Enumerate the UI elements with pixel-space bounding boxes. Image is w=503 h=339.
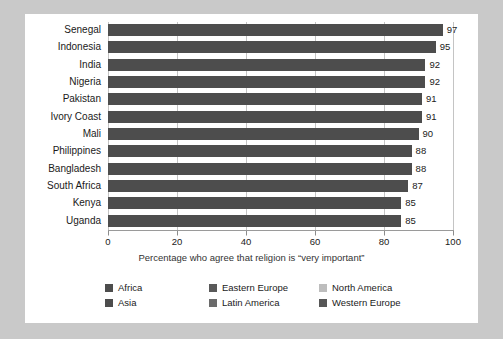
legend-swatch-icon [209, 299, 217, 307]
bar [108, 163, 412, 175]
category-label: Mali [25, 126, 101, 143]
legend-item[interactable]: Latin America [209, 295, 319, 310]
bar-row: 85 [108, 195, 453, 212]
legend-swatch-icon [209, 284, 217, 292]
bar-value-label: 85 [405, 196, 416, 209]
bar-value-label: 91 [426, 92, 437, 105]
x-axis-ticks: 020406080100 [108, 231, 453, 249]
chart-legend: AfricaEastern EuropeNorth AmericaAsiaLat… [105, 280, 405, 310]
legend-label: Eastern Europe [222, 282, 288, 293]
bar-row: 92 [108, 74, 453, 91]
bar-row: 97 [108, 22, 453, 39]
legend-label: Western Europe [332, 297, 400, 308]
bar-row: 88 [108, 143, 453, 160]
bar [108, 197, 401, 209]
bar-row: 90 [108, 126, 453, 143]
bar-value-label: 87 [412, 179, 423, 192]
chart-page: SenegalIndonesiaIndiaNigeriaPakistanIvor… [0, 0, 503, 339]
legend-swatch-icon [319, 284, 327, 292]
bar [108, 41, 436, 53]
category-label: Uganda [25, 213, 101, 230]
bar [108, 128, 419, 140]
legend-swatch-icon [105, 284, 113, 292]
bar-value-label: 97 [447, 23, 458, 36]
x-tick-mark [108, 231, 109, 235]
legend-swatch-icon [105, 299, 113, 307]
bar-row: 85 [108, 213, 453, 230]
bar [108, 111, 422, 123]
bar-row: 87 [108, 178, 453, 195]
legend-label: North America [332, 282, 392, 293]
bar-value-label: 95 [440, 40, 451, 53]
category-label: Ivory Coast [25, 109, 101, 126]
bar [108, 215, 401, 227]
x-tick-label: 100 [445, 236, 461, 247]
x-tick-mark [384, 231, 385, 235]
x-tick-mark [246, 231, 247, 235]
legend-item[interactable]: Africa [105, 280, 209, 295]
x-tick-mark [315, 231, 316, 235]
bar [108, 59, 425, 71]
x-tick-label: 0 [105, 236, 110, 247]
bar-value-label: 92 [429, 75, 440, 88]
bar-row: 92 [108, 57, 453, 74]
legend-item[interactable]: Eastern Europe [209, 280, 319, 295]
bar-value-label: 91 [426, 110, 437, 123]
x-tick-mark [177, 231, 178, 235]
bar [108, 76, 425, 88]
category-label: Kenya [25, 195, 101, 212]
category-label: India [25, 57, 101, 74]
bar-value-label: 92 [429, 58, 440, 71]
bar-value-label: 88 [416, 162, 427, 175]
bar-value-label: 90 [423, 127, 434, 140]
category-label: Nigeria [25, 74, 101, 91]
category-label: Bangladesh [25, 161, 101, 178]
legend-label: Asia [118, 297, 136, 308]
legend-item[interactable]: Asia [105, 295, 209, 310]
chart-card: SenegalIndonesiaIndiaNigeriaPakistanIvor… [25, 14, 478, 323]
legend-label: Latin America [222, 297, 280, 308]
bar-row: 91 [108, 109, 453, 126]
bar-row: 88 [108, 161, 453, 178]
x-tick-label: 40 [241, 236, 252, 247]
bar-value-label: 85 [405, 214, 416, 227]
bar [108, 180, 408, 192]
bar-row: 95 [108, 39, 453, 56]
category-label: South Africa [25, 178, 101, 195]
bar [108, 145, 412, 157]
bar [108, 93, 422, 105]
category-axis-labels: SenegalIndonesiaIndiaNigeriaPakistanIvor… [25, 22, 101, 230]
x-tick-label: 60 [310, 236, 321, 247]
gridline [453, 22, 454, 236]
x-tick-label: 20 [172, 236, 183, 247]
bar-value-label: 88 [416, 144, 427, 157]
category-label: Philippines [25, 143, 101, 160]
legend-item[interactable]: North America [319, 280, 429, 295]
plot-area: 979592929191908888878585 [108, 22, 453, 230]
x-axis-title: Percentage who agree that religion is “v… [25, 252, 478, 263]
bar [108, 24, 443, 36]
legend-item[interactable]: Western Europe [319, 295, 429, 310]
category-label: Senegal [25, 22, 101, 39]
legend-label: Africa [118, 282, 142, 293]
x-tick-label: 80 [379, 236, 390, 247]
category-label: Indonesia [25, 39, 101, 56]
x-tick-mark [453, 231, 454, 235]
category-label: Pakistan [25, 91, 101, 108]
legend-swatch-icon [319, 299, 327, 307]
bar-row: 91 [108, 91, 453, 108]
